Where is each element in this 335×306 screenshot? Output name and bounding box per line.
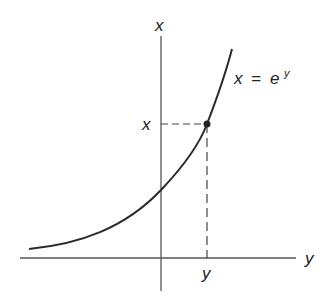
marked-point xyxy=(204,121,211,128)
exponential-diagram: x y x y x = e y xyxy=(0,0,335,306)
horizontal-axis-label: y xyxy=(304,249,315,268)
vertical-axis-label: x xyxy=(154,16,164,35)
equation-lhs: x xyxy=(233,69,243,88)
equation-base: e xyxy=(270,69,279,88)
point-x-label: x xyxy=(141,115,151,134)
equation-equals: = xyxy=(251,69,261,88)
exponential-curve xyxy=(29,49,232,249)
equation-exponent: y xyxy=(283,67,291,79)
point-y-label: y xyxy=(201,264,212,283)
curve-equation: x = e y xyxy=(233,67,291,88)
